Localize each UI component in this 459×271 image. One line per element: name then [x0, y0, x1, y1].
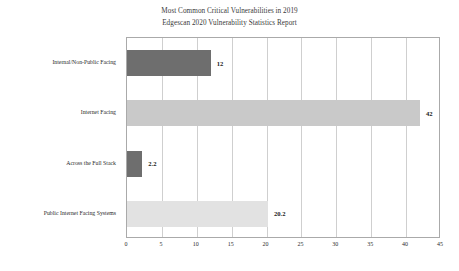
category-label: Public Internet Facing Systems: [0, 209, 116, 217]
bar-value-label: 12: [217, 60, 224, 67]
bar: [127, 50, 211, 76]
bars-layer: 12422.220.2: [127, 38, 439, 237]
x-tick-label: 15: [228, 241, 234, 247]
x-tick-label: 45: [437, 241, 443, 247]
chart-subtitle: Edgescan 2020 Vulnerability Statistics R…: [0, 18, 459, 28]
chart-title-block: Most Common Critical Vulnerabilities in …: [0, 6, 459, 28]
bar: [127, 201, 268, 227]
x-tick-label: 5: [159, 241, 162, 247]
bar: [127, 151, 142, 177]
bar-row: 12: [127, 38, 439, 88]
chart-title: Most Common Critical Vulnerabilities in …: [0, 6, 459, 16]
bar-value-label: 20.2: [274, 210, 286, 217]
bar-value-label: 42: [426, 110, 433, 117]
bar-row: 42: [127, 88, 439, 138]
plot-area: 12422.220.2: [126, 37, 440, 238]
bar: [127, 100, 420, 126]
bar-chart: Most Common Critical Vulnerabilities in …: [0, 0, 459, 271]
category-label: Internal/Non-Public Facing: [0, 58, 116, 66]
x-tick-label: 20: [263, 241, 269, 247]
bar-row: 20.2: [127, 189, 439, 239]
category-label: Across the Full Stack: [0, 159, 116, 167]
category-axis-labels: Internal/Non-Public FacingInternet Facin…: [0, 37, 122, 238]
x-tick-label: 0: [125, 241, 128, 247]
x-tick-label: 35: [367, 241, 373, 247]
x-tick-label: 40: [402, 241, 408, 247]
x-tick-label: 10: [193, 241, 199, 247]
category-label: Internet Facing: [0, 108, 116, 116]
x-tick-label: 30: [332, 241, 338, 247]
x-axis-tick-labels: 051015202530354045: [126, 241, 440, 253]
bar-value-label: 2.2: [148, 160, 156, 167]
bar-row: 2.2: [127, 139, 439, 189]
x-tick-label: 25: [297, 241, 303, 247]
